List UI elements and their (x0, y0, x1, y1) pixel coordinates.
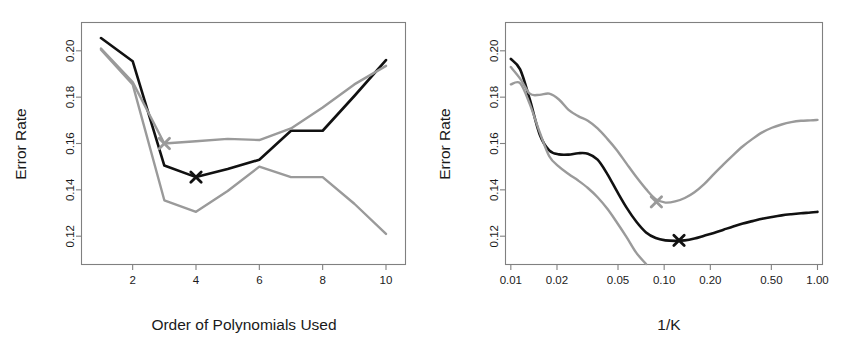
y-tick-label: 0.12 (488, 225, 500, 247)
series-line-error-gray-lower (511, 82, 646, 264)
x-tick-label: 0.50 (760, 274, 782, 286)
series-line-prediction-error-black (101, 38, 386, 177)
x-axis-title-right: 1/K (657, 316, 681, 333)
y-tick-label: 0.14 (488, 178, 500, 201)
chart-svg-right: Error Rate 1/K 0.120.140.160.180.20 0.01… (426, 0, 852, 349)
x-axis-title-left: Order of Polynomials Used (151, 316, 336, 333)
y-tick-label: 0.16 (488, 132, 500, 154)
y-tick-label: 0.18 (488, 86, 500, 108)
data-curves-right (511, 59, 818, 264)
chart-svg-left: Error Rate Order of Polynomials Used 0.1… (0, 0, 426, 349)
y-tick-label: 0.16 (64, 132, 76, 154)
x-tick-label: 1.00 (806, 274, 828, 286)
x-tick-label: 0.01 (500, 274, 522, 286)
x-tick-labels-left: 246810 (129, 274, 392, 286)
y-tick-labels-right: 0.120.140.160.180.20 (488, 40, 500, 248)
x-tick-label: 10 (380, 274, 393, 286)
y-tick-label: 0.14 (64, 178, 76, 201)
series-line-prediction-error-black (511, 59, 818, 241)
x-tick-label: 8 (319, 274, 325, 286)
chart-panel-left: Error Rate Order of Polynomials Used 0.1… (0, 0, 426, 349)
x-tick-label: 6 (256, 274, 262, 286)
y-tick-label: 0.18 (64, 86, 76, 108)
figure-container: Error Rate Order of Polynomials Used 0.1… (0, 0, 852, 349)
plot-frame-right (506, 23, 823, 265)
x-tick-label: 0.20 (699, 274, 721, 286)
x-tick-label: 4 (193, 274, 200, 286)
y-axis-title-right: Error Rate (436, 108, 453, 180)
y-axis-title-left: Error Rate (12, 108, 29, 180)
axis-ticks-left (76, 51, 386, 270)
y-tick-label: 0.20 (488, 40, 500, 62)
y-tick-label: 0.20 (64, 40, 76, 62)
x-tick-label: 2 (129, 274, 135, 286)
x-tick-label: 0.10 (653, 274, 675, 286)
y-tick-labels-left: 0.120.140.160.180.20 (64, 40, 76, 248)
data-curves-left (101, 38, 386, 234)
series-line-error-gray-lower (101, 50, 386, 234)
x-tick-labels-right: 0.010.020.050.100.200.501.00 (500, 274, 829, 286)
series-line-cv-error-gray-upper (511, 67, 818, 203)
x-tick-label: 0.05 (607, 274, 629, 286)
data-markers-left (159, 138, 201, 182)
chart-panel-right: Error Rate 1/K 0.120.140.160.180.20 0.01… (426, 0, 852, 349)
x-tick-label: 0.02 (546, 274, 568, 286)
axis-ticks-right (500, 51, 817, 270)
y-tick-label: 0.12 (64, 225, 76, 247)
